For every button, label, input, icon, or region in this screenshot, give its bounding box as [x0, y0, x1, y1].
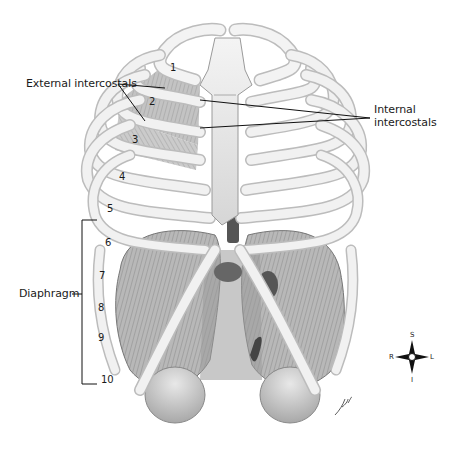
- label-external-intercostals: External intercostals: [26, 78, 137, 90]
- rib-number-9: 9: [98, 332, 104, 343]
- artist-signature: [335, 397, 352, 415]
- rib-number-8: 8: [98, 302, 104, 313]
- rib-number-5: 5: [107, 203, 113, 214]
- anatomy-figure: External intercostals Internal intercost…: [0, 0, 451, 450]
- rib-number-4: 4: [119, 171, 125, 182]
- rib-number-10: 10: [101, 374, 114, 385]
- compass-superior: S: [410, 331, 414, 339]
- compass-left: L: [430, 353, 434, 361]
- label-diaphragm: Diaphragm: [19, 288, 79, 300]
- rib-number-2: 2: [149, 96, 155, 107]
- rib-number-7: 7: [99, 270, 105, 281]
- compass-right: R: [389, 353, 394, 361]
- orientation-compass: [395, 340, 429, 374]
- ribcage-illustration: [0, 0, 451, 450]
- compass-inferior: I: [411, 376, 413, 384]
- label-internal-intercostals-line2: intercostals: [374, 117, 437, 129]
- rib-number-1: 1: [170, 62, 176, 73]
- rib-number-6: 6: [105, 237, 111, 248]
- label-internal-intercostals-line1: Internal: [374, 104, 416, 116]
- rib-number-3: 3: [132, 134, 138, 145]
- sternum: [200, 38, 252, 225]
